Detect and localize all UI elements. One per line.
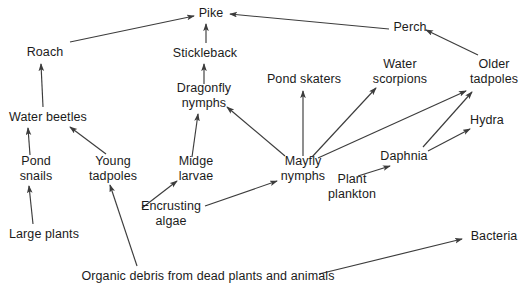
edge-arrow	[227, 107, 285, 156]
node-midge_larvae: Midge larvae	[179, 154, 214, 184]
edge-arrow	[70, 16, 194, 42]
node-pike: Pike	[199, 6, 224, 21]
node-plant_plankton: Plant plankton	[328, 172, 376, 202]
node-stickleback: Stickleback	[173, 46, 237, 61]
edge-arrow	[230, 14, 389, 29]
edge-arrow	[205, 181, 277, 206]
edge-arrow	[28, 128, 30, 155]
edge-arrow	[428, 129, 470, 151]
node-daphnia: Daphnia	[380, 149, 427, 164]
edge-arrow	[41, 64, 43, 107]
node-organic_debris: Organic debris from dead plants and anim…	[81, 269, 334, 284]
node-bacteria: Bacteria	[471, 229, 518, 244]
node-pond_snails: Pond snails	[20, 154, 53, 184]
edge-layer	[0, 0, 530, 293]
edge-arrow	[110, 185, 137, 266]
edge-arrow	[426, 30, 478, 55]
node-older_tadpoles: Older tadpoles	[470, 57, 518, 87]
edge-arrow	[423, 92, 472, 147]
node-water_beetles: Water beetles	[9, 110, 87, 125]
edge-arrow	[70, 127, 106, 154]
node-dragonfly: Dragonfly nymphs	[177, 81, 231, 111]
food-web-diagram: PikePerchRoachSticklebackWater scorpions…	[0, 0, 530, 293]
node-hydra: Hydra	[470, 113, 504, 128]
edge-group	[28, 14, 478, 274]
node-perch: Perch	[393, 20, 426, 35]
edge-arrow	[319, 239, 462, 274]
node-encrusting_algae: Encrusting algae	[141, 199, 201, 229]
node-mayfly: Mayfly nymphs	[281, 154, 325, 184]
node-pond_skaters: Pond skaters	[267, 72, 341, 87]
edge-arrow	[192, 114, 198, 157]
node-roach: Roach	[27, 45, 64, 60]
node-water_scorpions: Water scorpions	[373, 57, 427, 87]
edge-arrow	[29, 186, 33, 224]
node-large_plants: Large plants	[9, 227, 79, 242]
node-young_tadpoles: Young tadpoles	[89, 154, 137, 184]
